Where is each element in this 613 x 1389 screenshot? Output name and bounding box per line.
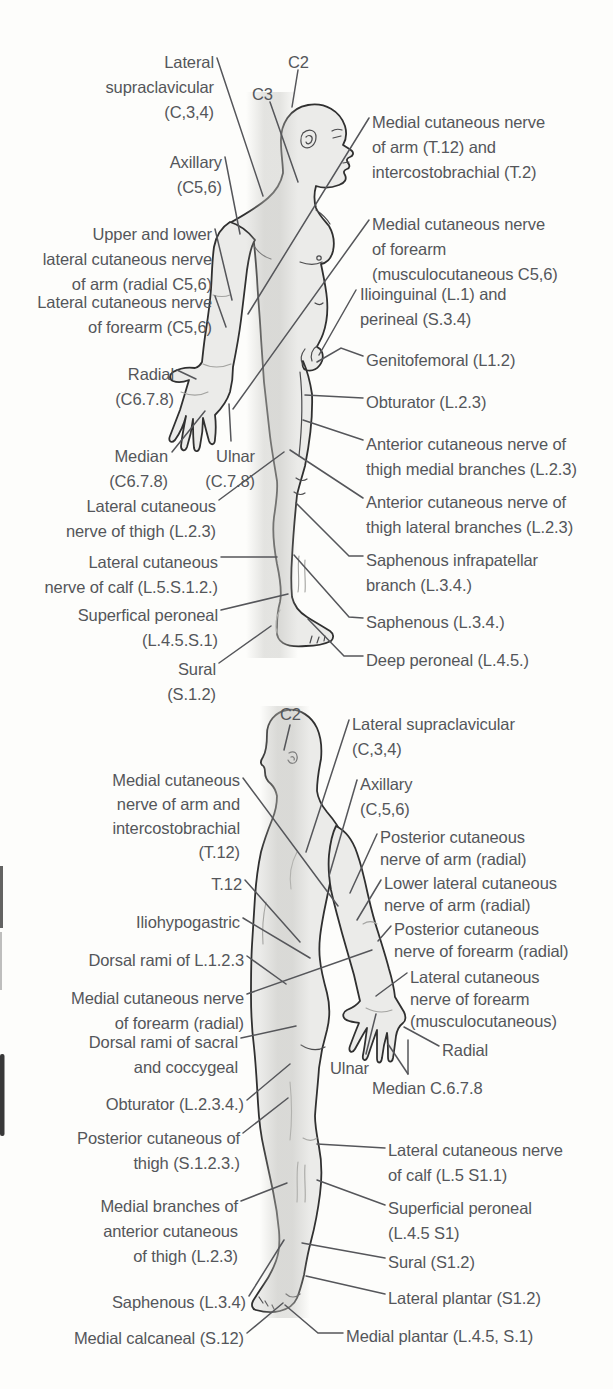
f2-label-lateral-forearm-musculocutaneous: Lateral cutaneous nerve of forearm (musc… (410, 966, 557, 1032)
f1-label-medial-forearm: Medial cutaneous nerve of forearm (muscu… (372, 212, 558, 287)
f2-label-sural: Sural (S1.2) (388, 1250, 475, 1275)
f2-label-medial-arm-intercostobrachial: Medial cutaneous nerve of arm and interc… (112, 768, 240, 864)
f2-label-posterior-thigh: Posterior cutaneous of thigh (S.1.2.3.) (77, 1126, 240, 1176)
leader-superficial-peroneal (317, 1180, 385, 1205)
f1-label-c2: C2 (288, 50, 309, 75)
f2-label-t12: T.12 (211, 872, 242, 897)
f1-label-axillary: Axillary (C5,6) (170, 150, 222, 200)
f1-label-obturator: Obturator (L.2.3) (366, 390, 486, 415)
leader-posterior-forearm (378, 926, 391, 941)
leader-anterior-thigh-medial (303, 420, 363, 440)
f1-label-median: Median (C6.7.8) (109, 444, 168, 494)
f1-label-saphenous-infrapatellar: Saphenous infrapatellar branch (L.3.4.) (366, 548, 538, 598)
leader-sural (302, 1243, 385, 1258)
scan-artifacts (0, 866, 5, 1136)
f2-label-medial-branches-anterior-thigh: Medial branches of anterior cutaneous of… (100, 1194, 238, 1269)
f1-label-radial: Radial (C6.7.8) (115, 362, 174, 412)
f2-label-medial-calcaneal: Medial calcaneal (S.12) (74, 1326, 244, 1351)
f2-label-saphenous: Saphenous (L.3.4) (112, 1290, 246, 1315)
f2-label-lateral-calf: Lateral cutaneous nerve of calf (L.5 S1.… (388, 1138, 563, 1188)
diagram-canvas: Lateral supraclavicular (C,3,4) C3 C2 Ax… (0, 0, 613, 1389)
f1-label-upper-lower-lateral-arm: Upper and lower lateral cutaneous nerve … (43, 222, 212, 297)
f2-label-ulnar: Ulnar (330, 1056, 369, 1081)
f1-label-deep-peroneal: Deep peroneal (L.4.5.) (366, 648, 529, 673)
f1-label-ilioinguinal: Ilioinguinal (L.1) and perineal (S.3.4) (360, 282, 506, 332)
f2-label-median: Median C.6.7.8 (372, 1076, 483, 1101)
f1-label-superficial-peroneal: Superfical peroneal (L.4.5.S.1) (78, 603, 218, 653)
f2-label-axillary: Axillary (C,5,6) (360, 772, 412, 822)
leader-lateral-calf (317, 1144, 385, 1148)
f1-label-sural: Sural (S.1.2) (167, 657, 216, 707)
f2-label-lateral-supraclavicular: Lateral supraclavicular (C,3,4) (352, 712, 515, 762)
f1-label-saphenous: Saphenous (L.3.4.) (366, 610, 505, 635)
leader-saphenous-infrapatellar (296, 503, 363, 556)
leader-genitofemoral (317, 348, 363, 362)
f2-label-c2: C2 (280, 702, 301, 727)
leader-ulnar (229, 404, 231, 441)
f2-label-posterior-arm: Posterior cutaneous nerve of arm (radial… (380, 826, 526, 870)
leader-lateral-plantar (306, 1276, 385, 1294)
f1-label-ulnar: Ulnar (C.7.8) (205, 444, 255, 494)
f1-label-medial-arm: Medial cutaneous nerve of arm (T.12) and… (372, 110, 545, 185)
f2-label-medial-plantar: Medial plantar (L.4.5, S.1) (346, 1324, 533, 1349)
f2-label-medial-forearm-radial: Medial cutaneous nerve of forearm (radia… (71, 986, 244, 1036)
f2-label-obturator: Obturator (L.2.3.4.) (106, 1092, 244, 1117)
f2-label-iliohypogastric: Iliohypogastric (136, 910, 240, 935)
f1-label-genitofemoral: Genitofemoral (L1.2) (366, 348, 515, 373)
f1-label-lateral-thigh: Lateral cutaneous nerve of thigh (L.2.3) (66, 494, 216, 544)
f2-label-superficial-peroneal: Superficial peroneal (L.4.5 S1) (388, 1196, 532, 1246)
f1-label-lateral-supraclavicular: Lateral supraclavicular (C,3,4) (105, 50, 214, 125)
f2-label-dorsal-rami-l123: Dorsal rami of L.1.2.3 (88, 948, 244, 973)
f2-label-lateral-plantar: Lateral plantar (S1.2) (388, 1286, 541, 1311)
f1-label-lateral-forearm: Lateral cutaneous nerve of forearm (C5,6… (37, 290, 212, 340)
f2-label-dorsal-rami-sacral: Dorsal rami of sacral and coccygeal (89, 1030, 238, 1080)
f2-label-lower-lateral-arm: Lower lateral cutaneous nerve of arm (ra… (384, 872, 557, 916)
f1-label-lateral-calf: Lateral cutaneous nerve of calf (L.5.S.1… (45, 550, 219, 600)
f2-label-radial: Radial (442, 1038, 488, 1063)
f1-label-anterior-thigh-lateral: Anterior cutaneous nerve of thigh latera… (366, 490, 573, 540)
f2-label-posterior-forearm: Posterior cutaneous nerve of forearm (ra… (394, 918, 568, 962)
f1-label-anterior-thigh-medial: Anterior cutaneous nerve of thigh medial… (366, 432, 577, 482)
leader-obturator (305, 395, 363, 398)
f1-label-c3: C3 (252, 82, 273, 107)
